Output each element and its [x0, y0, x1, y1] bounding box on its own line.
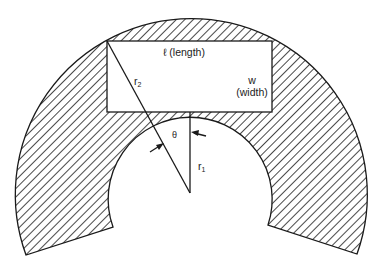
annulus-rectangle-diagram: ℓ (length) w (width) r2 r1 θ — [0, 0, 378, 267]
inner-radius-subscript: 1 — [202, 166, 206, 173]
inner-radius-label: r1 — [198, 160, 206, 173]
width-symbol-label: w — [247, 74, 256, 86]
angle-arrow-right-icon — [191, 130, 206, 136]
angle-arrow-left-icon — [150, 143, 164, 152]
diagram-canvas: ℓ (length) w (width) r2 r1 θ — [0, 0, 378, 267]
width-text-label: (width) — [236, 86, 268, 98]
length-label: ℓ (length) — [163, 46, 205, 58]
angle-label: θ — [172, 130, 177, 140]
outer-radius-subscript: 2 — [138, 81, 142, 88]
